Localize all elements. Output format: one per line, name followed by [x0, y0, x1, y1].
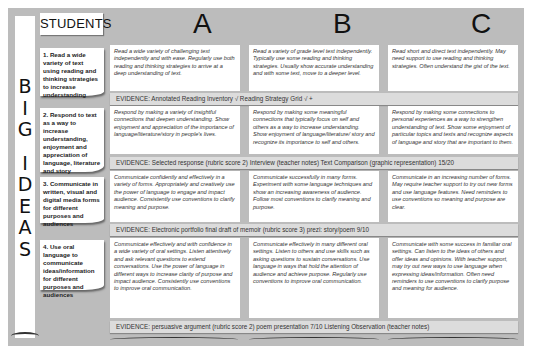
evidence-bar-4: EVIDENCE: persuasive argument (rubric sc… — [110, 321, 518, 333]
cell-row3-a: Communicate confidently and effectively … — [110, 171, 240, 222]
curl-decoration — [110, 337, 238, 342]
big-ideas-letter: I — [22, 98, 28, 120]
evidence-bar-2: EVIDENCE: Selected response (rubric scor… — [110, 157, 518, 169]
cell-row1-c: Read short and direct text independently… — [388, 45, 518, 91]
big-ideas-letter: S — [19, 239, 31, 261]
column-header-c: C — [471, 8, 491, 40]
cell-row3-b: Communicate successfully in many forms. … — [249, 171, 379, 222]
big-ideas-letter: B — [18, 76, 31, 98]
big-ideas-letter: I — [22, 153, 28, 175]
big-ideas-banner: B I G I D E A S — [15, 16, 35, 338]
cell-row2-c: Respond by making some connections to pe… — [388, 106, 518, 154]
cell-row4-a: Communicate effectively and with confide… — [110, 238, 240, 318]
column-header-a: A — [193, 8, 212, 40]
cell-row4-c: Communicate with some success in familia… — [388, 238, 518, 318]
cell-row1-a: Read a wide variety of challenging text … — [110, 45, 240, 91]
big-idea-2: 2. Respond to text as a way to increase … — [40, 108, 104, 172]
students-label: STUDENTS — [40, 13, 103, 35]
curl-decoration — [388, 337, 518, 342]
cell-row2-b: Respond by making some meaningful connec… — [249, 106, 379, 154]
cell-row2-a: Respond by making a variety of insightfu… — [110, 106, 240, 154]
big-ideas-letter: G — [18, 119, 33, 141]
big-idea-1: 1. Read a wide variety of text using rea… — [40, 48, 104, 96]
curl-decoration — [249, 337, 379, 342]
big-ideas-letter: E — [19, 196, 31, 218]
cell-row1-b: Read a variety of grade level text indep… — [249, 45, 379, 91]
evidence-bar-3: EVIDENCE: Electronic portfolio final dra… — [110, 224, 518, 236]
big-idea-3: 3. Communicate in written, visual and di… — [40, 177, 104, 223]
big-idea-4: 4. Use oral language to communicate idea… — [40, 240, 104, 290]
big-ideas-letter: D — [18, 174, 33, 196]
column-header-b: B — [333, 8, 352, 40]
evidence-bar-1: EVIDENCE: Annotated Reading Inventory √ … — [110, 93, 518, 105]
cell-row4-b: Communicate effectively in many differen… — [249, 238, 379, 318]
big-ideas-letter: A — [19, 217, 32, 239]
cell-row3-c: Communicate in an increasing number of f… — [388, 171, 518, 222]
